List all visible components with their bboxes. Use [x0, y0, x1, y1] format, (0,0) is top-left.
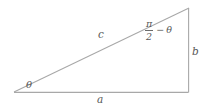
hypotenuse-label: c — [98, 29, 104, 40]
minus-sign: − — [156, 25, 164, 35]
angle-theta-label: θ — [26, 80, 32, 90]
base-label: a — [97, 94, 103, 105]
complement-theta-symbol: θ — [166, 25, 172, 35]
pi-over-two-fraction: π 2 — [145, 19, 153, 41]
fraction-numerator: π — [145, 19, 153, 30]
triangle-shape — [0, 0, 207, 109]
triangle-diagram: θ c a b π 2 − θ — [0, 0, 207, 109]
vertical-side-label: b — [192, 46, 199, 57]
fraction-denominator: 2 — [145, 31, 153, 42]
complement-angle-label: π 2 − θ — [145, 19, 172, 41]
